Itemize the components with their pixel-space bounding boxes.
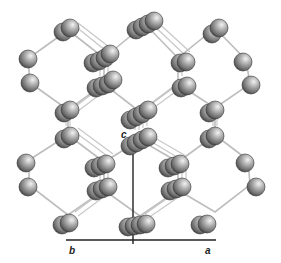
- axis-label-b: b: [69, 245, 75, 256]
- crystal-structure-diagram: c b a: [0, 0, 281, 263]
- axis-label-a: a: [205, 245, 211, 256]
- axis-label-c: c: [121, 129, 127, 140]
